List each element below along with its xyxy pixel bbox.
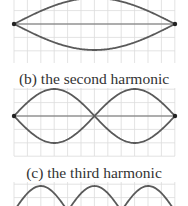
caption-second-harmonic: (b) the second harmonic <box>19 70 169 88</box>
caption-third-harmonic: (c) the third harmonic <box>26 164 162 182</box>
node-dot-icon <box>12 22 16 26</box>
standing-wave-figure: (b) the second harmonic (c) the third ha… <box>0 0 188 206</box>
grid-panel-b <box>14 88 175 156</box>
node-dot-icon <box>173 114 177 118</box>
node-dot-icon <box>173 22 177 26</box>
node-dot-icon <box>12 114 16 118</box>
grid-panel-a <box>14 0 175 63</box>
